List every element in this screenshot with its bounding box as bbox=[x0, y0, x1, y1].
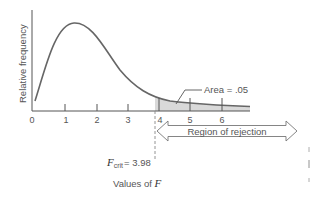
x-tick-label: 4 bbox=[157, 115, 162, 125]
y-axis-label: Relative frequency bbox=[17, 24, 28, 103]
f-distribution-chart: 0 1 2 3 4 5 6 Relative frequency Area = … bbox=[0, 0, 313, 199]
area-label: Area = .05 bbox=[204, 84, 248, 95]
x-tick-label: 6 bbox=[219, 115, 224, 125]
x-axis-label: Values of F bbox=[113, 177, 162, 189]
x-tick-label: 1 bbox=[63, 115, 68, 125]
rejection-region-label: Region of rejection bbox=[187, 126, 266, 137]
x-tick-label: 2 bbox=[94, 115, 99, 125]
x-tick-label: 5 bbox=[187, 115, 192, 125]
x-tick-label: 3 bbox=[125, 115, 130, 125]
x-tick-label: 0 bbox=[29, 115, 34, 125]
critical-value-label: Fcrit= 3.98 bbox=[106, 156, 151, 169]
